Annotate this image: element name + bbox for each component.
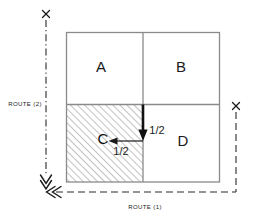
quadrant-label-a: A bbox=[96, 58, 106, 75]
horizontal-flow-label: 1/2 bbox=[113, 145, 128, 157]
marker-top-left-x-icon bbox=[43, 11, 50, 18]
marker-right-x-icon bbox=[233, 103, 240, 110]
route-2-label: ROUTE (2) bbox=[8, 101, 42, 107]
routing-diagram: A B C D 1/2 1/2 ROUTE (2) ROUTE bbox=[0, 0, 254, 216]
quadrant-label-c: C bbox=[98, 130, 109, 147]
diagram-canvas: A B C D 1/2 1/2 ROUTE (2) ROUTE bbox=[0, 0, 254, 216]
vertical-flow-label: 1/2 bbox=[149, 124, 164, 136]
route-1-label: ROUTE (1) bbox=[128, 204, 162, 210]
quadrant-label-d: D bbox=[178, 132, 189, 149]
quadrant-label-b: B bbox=[176, 58, 186, 75]
route-2-arrowhead bbox=[41, 175, 52, 189]
